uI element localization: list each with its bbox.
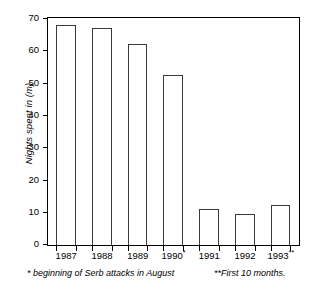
y-axis-tick-label: 0	[34, 238, 39, 249]
y-axis-tick: 70	[43, 18, 48, 19]
plot-area: 010203040506070	[47, 17, 300, 246]
y-axis-tick-label: 30	[28, 141, 39, 152]
plot-inner: 010203040506070	[48, 18, 299, 245]
y-axis-tick: 40	[43, 115, 48, 116]
y-axis-tick: 0	[43, 244, 48, 245]
y-axis-tick: 60	[43, 50, 48, 51]
x-axis-label-1992: 1992	[234, 250, 255, 261]
y-axis-tick-label: 60	[28, 44, 39, 55]
x-axis-label-1993: 1993**	[268, 250, 295, 261]
y-axis-tick-label: 20	[28, 174, 39, 185]
y-axis-tick-label: 10	[28, 206, 39, 217]
x-axis-label-1990: 1990*	[162, 250, 186, 261]
y-axis-tick-label: 70	[28, 12, 39, 23]
x-axis-label-1991: 1991	[199, 250, 220, 261]
bar-1993[interactable]	[271, 205, 291, 245]
bar-1992[interactable]	[235, 214, 255, 245]
bar-1987[interactable]	[56, 25, 76, 245]
y-axis-tick-label: 50	[28, 77, 39, 88]
x-axis-label-1988: 1988	[91, 250, 112, 261]
x-axis-label-1987: 1987	[56, 250, 77, 261]
footnote-left: * beginning of Serb attacks in August	[27, 268, 174, 278]
y-axis-tick-label: 40	[28, 109, 39, 120]
chart-screenshot: Nights spent in (m) 010203040506070 1987…	[0, 0, 317, 294]
bar-1990[interactable]	[163, 75, 183, 245]
footnote-right: **First 10 months.	[214, 268, 286, 278]
y-axis-tick: 10	[43, 212, 48, 213]
bar-1991[interactable]	[199, 209, 219, 245]
x-axis-label-1989: 1989	[127, 250, 148, 261]
y-axis-tick: 20	[43, 180, 48, 181]
x-axis-label-footnote-mark: *	[183, 249, 186, 256]
bar-1988[interactable]	[92, 28, 112, 245]
x-axis-label-footnote-mark: **	[289, 249, 294, 256]
bar-1989[interactable]	[128, 44, 148, 245]
y-axis-tick: 50	[43, 83, 48, 84]
y-axis-tick: 30	[43, 147, 48, 148]
